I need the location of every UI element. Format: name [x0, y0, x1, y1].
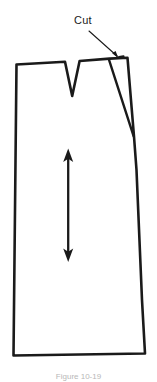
- pattern-drawing-svg: [0, 0, 157, 382]
- cut-label: Cut: [74, 14, 92, 27]
- cut-leader-line: [89, 31, 117, 56]
- figure-illustration: Cut Figure 10-19: [0, 0, 157, 382]
- skirt-outline-path: [14, 58, 146, 356]
- cut-notch-mark: [119, 56, 124, 57]
- figure-caption: Figure 10-19: [0, 372, 157, 382]
